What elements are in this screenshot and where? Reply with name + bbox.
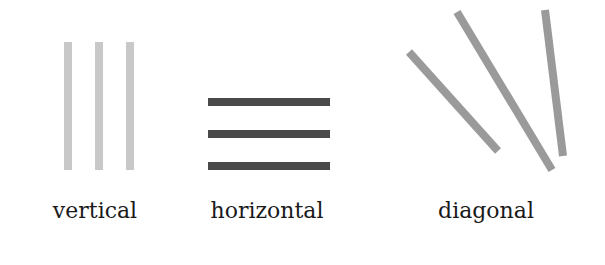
- diagonal-line-3: [545, 10, 563, 156]
- diagonal-line-1: [409, 52, 498, 151]
- vertical-label: vertical: [53, 198, 137, 223]
- diagonal-lines-group: [409, 10, 563, 170]
- vertical-lines-group: [68, 42, 130, 170]
- diagonal-label: diagonal: [438, 198, 534, 223]
- line-orientation-diagram: [0, 0, 605, 265]
- horizontal-label: horizontal: [211, 198, 324, 223]
- horizontal-lines-group: [208, 102, 330, 166]
- diagonal-line-2: [457, 12, 552, 170]
